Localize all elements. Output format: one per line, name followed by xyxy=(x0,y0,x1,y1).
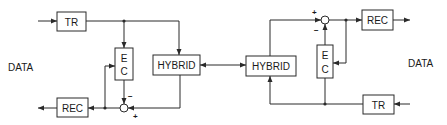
left-summer-minus: − xyxy=(128,92,133,101)
right-data-label: DATA xyxy=(408,58,434,69)
arrow-icon xyxy=(394,102,400,107)
right-tr-label: TR xyxy=(372,100,385,111)
right-rec-label: REC xyxy=(367,15,388,26)
right-ec-label-e: E xyxy=(322,50,329,61)
left-summer-plus: + xyxy=(133,112,138,121)
left-ec-label-c: C xyxy=(120,66,127,77)
hybrid-link xyxy=(200,63,246,68)
arrow-icon xyxy=(356,18,362,23)
arrow-icon xyxy=(128,106,134,111)
arrow-icon xyxy=(88,106,94,111)
arrow-icon xyxy=(315,18,321,23)
arrow-icon xyxy=(122,42,127,48)
left-station: DATA TR E C HYBRID − + xyxy=(8,12,200,121)
arrow-icon xyxy=(323,24,328,30)
right-summer-plus: + xyxy=(312,8,317,17)
right-ec-label-c: C xyxy=(321,64,328,75)
arrow-icon xyxy=(268,76,273,82)
left-ec-label-e: E xyxy=(121,53,128,64)
left-summer-circle xyxy=(120,104,128,112)
right-hybrid-label: HYBRID xyxy=(252,61,290,72)
echo-cancellation-diagram: DATA TR E C HYBRID − + xyxy=(0,0,447,125)
arrow-icon xyxy=(333,61,339,66)
left-data-label: DATA xyxy=(8,62,34,73)
arrow-icon xyxy=(240,63,246,68)
arrow-icon xyxy=(404,18,410,23)
arrow-icon xyxy=(122,98,127,104)
arrow-icon xyxy=(200,63,206,68)
arrow-icon xyxy=(177,49,182,55)
right-summer-circle xyxy=(321,16,329,24)
arrow-icon xyxy=(38,106,44,111)
left-rec-label: REC xyxy=(62,103,83,114)
left-hybrid-label: HYBRID xyxy=(158,60,196,71)
arrow-icon xyxy=(51,19,57,24)
arrow-icon xyxy=(109,64,115,69)
left-tr-label: TR xyxy=(65,17,78,28)
right-summer-minus: − xyxy=(314,26,319,35)
right-station: HYBRID + − REC E C xyxy=(246,8,434,114)
